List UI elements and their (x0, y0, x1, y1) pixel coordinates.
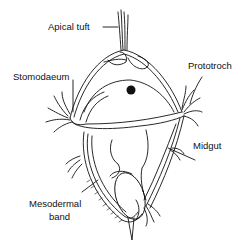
mesodermal-band (109, 169, 150, 223)
nucleus-dot (127, 86, 136, 95)
diagram-canvas: Apical tuft Stomodaeum Prototroch Midgut… (0, 0, 245, 247)
apical-tuft-cilia (118, 10, 128, 50)
label-prototroch: Prototroch (188, 60, 232, 71)
label-apical-tuft: Apical tuft (48, 21, 90, 32)
label-mesodermal: Mesodermal (29, 198, 81, 209)
label-stomodaeum: Stomodaeum (13, 71, 70, 82)
leader-midgut (168, 148, 195, 160)
label-band: band (49, 211, 70, 222)
larva-drawing (0, 0, 245, 247)
label-midgut: Midgut (193, 140, 222, 151)
prototroch-cilia-right (182, 86, 202, 126)
leader-mesodermal-band (82, 180, 98, 192)
lateral-cilia-left (66, 156, 82, 178)
hyposphere-right-wall (150, 116, 184, 208)
telotroch-cilia (144, 204, 160, 226)
prototroch-cilia-left (46, 92, 72, 132)
